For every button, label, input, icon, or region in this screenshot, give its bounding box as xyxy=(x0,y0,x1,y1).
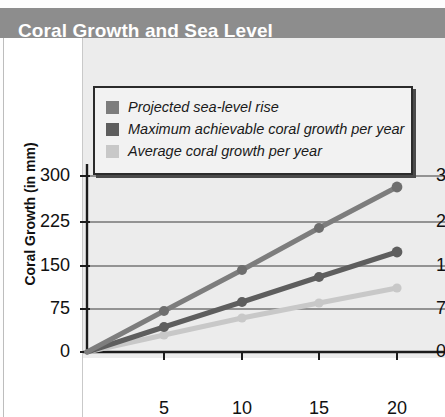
x-tick-label-5: 5 xyxy=(144,398,184,417)
y-tick-label-0: 0 xyxy=(22,341,70,362)
y-tick-label-right-0: 0 xyxy=(436,341,445,362)
x-tick-label-10: 10 xyxy=(222,398,262,417)
y-tick-label-300: 300 xyxy=(22,165,70,186)
y-tick-label-right-225: 2 xyxy=(436,211,445,232)
legend-swatch-icon xyxy=(106,123,119,136)
series-maximum-coral-growth xyxy=(87,247,402,352)
x-axis-ticks xyxy=(164,352,397,360)
chart-legend: Projected sea-level rise Maximum achieva… xyxy=(93,86,413,175)
y-tick-label-right-300: 3 xyxy=(436,165,445,186)
y-tick-label-right-75: 7 xyxy=(436,298,445,319)
series-average-coral-growth xyxy=(87,283,402,352)
legend-item-average-coral-growth: Average coral growth per year xyxy=(106,140,322,162)
chart-figure: Coral Growth and Sea Level xyxy=(0,0,445,417)
legend-swatch-icon xyxy=(106,101,119,114)
x-tick-label-15: 15 xyxy=(299,398,339,417)
legend-swatch-icon xyxy=(106,145,119,158)
legend-item-maximum-coral-growth: Maximum achievable coral growth per year xyxy=(106,118,404,140)
legend-item-label: Maximum achievable coral growth per year xyxy=(128,121,404,137)
y-tick-label-right-150: 1 xyxy=(436,255,445,276)
y-tick-label-225: 225 xyxy=(22,211,70,232)
legend-item-projected-sea-level-rise: Projected sea-level rise xyxy=(106,96,279,118)
legend-item-label: Projected sea-level rise xyxy=(128,99,279,115)
y-axis-ticks-left xyxy=(80,176,90,352)
y-tick-label-150: 150 xyxy=(22,255,70,276)
y-tick-label-75: 75 xyxy=(22,298,70,319)
x-tick-label-20: 20 xyxy=(377,398,417,417)
legend-item-label: Average coral growth per year xyxy=(128,143,322,159)
title-bar: Coral Growth and Sea Level xyxy=(0,8,445,38)
chart-panel: Projected sea-level rise Maximum achieva… xyxy=(3,38,445,417)
